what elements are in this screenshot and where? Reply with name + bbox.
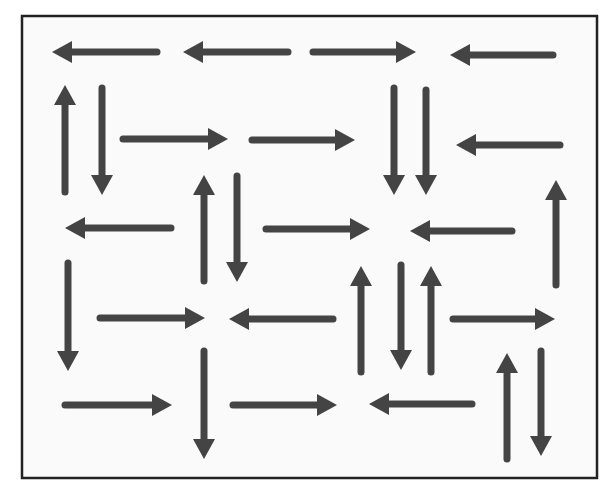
arrow-diagram — [0, 0, 613, 494]
diagram-frame — [22, 16, 597, 478]
diagram-canvas — [0, 0, 613, 494]
